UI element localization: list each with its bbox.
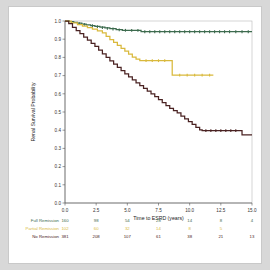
y-tick-label: 0.9: [55, 37, 62, 42]
risk-count: 102: [61, 226, 69, 231]
risk-count: 21: [218, 234, 223, 239]
plot-frame: [65, 21, 252, 203]
risk-count: 5: [220, 226, 223, 231]
risk-count: 208: [93, 234, 101, 239]
x-tick-label: 7.5: [155, 208, 162, 213]
risk-count: 28: [156, 218, 161, 223]
risk-row-label-0: Full Remission: [31, 218, 60, 223]
risk-count: 98: [94, 218, 99, 223]
risk-count: 160: [61, 218, 69, 223]
y-tick-label: 1.0: [55, 19, 62, 24]
km-curve-partial-remission: [65, 21, 213, 75]
risk-count: 4: [251, 218, 254, 223]
y-tick-label: 0.7: [55, 73, 62, 78]
risk-count: 54: [125, 218, 130, 223]
y-tick-label: 0.6: [55, 92, 62, 97]
y-tick-label: 0.5: [55, 110, 62, 115]
x-tick-label: 15.0: [248, 208, 257, 213]
risk-count: 38: [187, 234, 192, 239]
y-tick-label: 0.1: [55, 183, 62, 188]
risk-count: 8: [188, 226, 191, 231]
risk-count: 61: [156, 234, 161, 239]
risk-row-label-2: No Remission: [32, 234, 59, 239]
km-curve-full-remission: [65, 21, 252, 32]
risk-count: 14: [156, 226, 161, 231]
y-tick-label: 0.4: [55, 128, 62, 133]
risk-count: 8: [220, 218, 223, 223]
x-tick-label: 12.5: [216, 208, 225, 213]
risk-count: 13: [250, 234, 255, 239]
km-survival-plot: 0.00.10.20.30.40.50.60.70.80.91.00.02.55…: [9, 7, 261, 263]
km-curve-no-remission: [65, 21, 252, 135]
y-tick-label: 0.3: [55, 146, 62, 151]
risk-count: 60: [94, 226, 99, 231]
y-tick-label: 0.0: [55, 201, 62, 206]
x-tick-label: 5.0: [124, 208, 131, 213]
y-tick-label: 0.8: [55, 55, 62, 60]
y-axis-title: Renal Survival Probability: [30, 82, 36, 142]
figure-panel: 0.00.10.20.30.40.50.60.70.80.91.00.02.55…: [8, 6, 262, 264]
y-tick-label: 0.2: [55, 164, 62, 169]
x-tick-label: 0.0: [62, 208, 69, 213]
risk-count: 14: [187, 218, 192, 223]
risk-count: 32: [125, 226, 130, 231]
risk-row-label-1: Partial Remission: [26, 226, 60, 231]
risk-count: 381: [61, 234, 69, 239]
risk-count: 107: [124, 234, 132, 239]
x-tick-label: 2.5: [93, 208, 100, 213]
x-tick-label: 10.0: [185, 208, 194, 213]
